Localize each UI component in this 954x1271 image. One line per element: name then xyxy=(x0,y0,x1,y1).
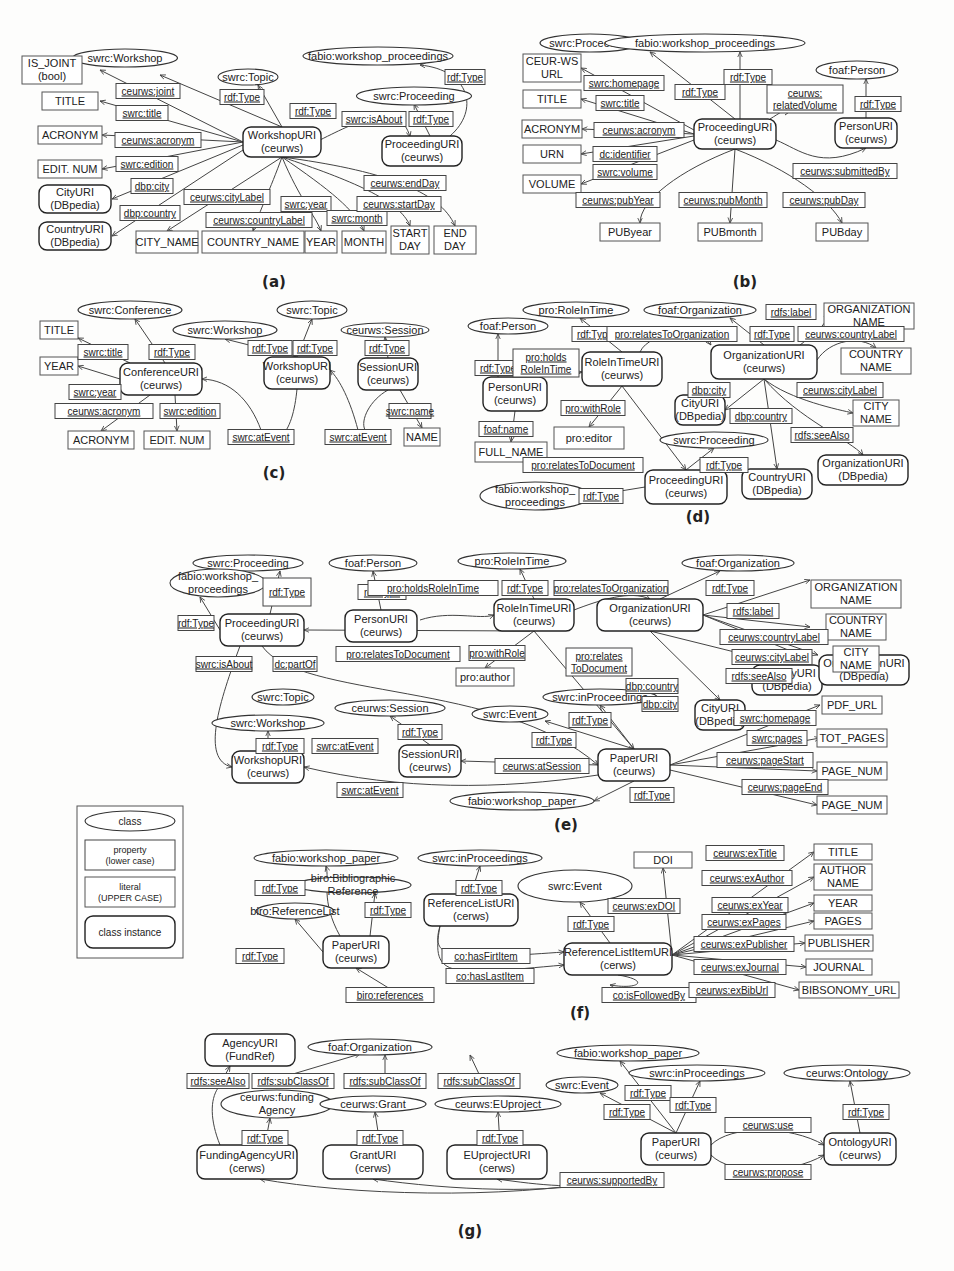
property-label: swrc:name xyxy=(386,404,435,419)
node-label: rdf:Type xyxy=(583,491,620,502)
node-label: rdfs:label xyxy=(771,307,812,318)
literal-node: CITY_NAME xyxy=(136,231,199,253)
node-label: TITLE xyxy=(55,95,85,107)
instance-node: ProceedingURI(ceurws) xyxy=(645,470,727,504)
node-label: (ceurws) xyxy=(247,767,289,779)
node-label: TITLE xyxy=(44,324,74,336)
node-label: YEAR xyxy=(44,360,74,372)
node-label: FULL_NAME xyxy=(479,446,544,458)
node-label: swrc:Proceeding xyxy=(673,434,754,446)
node-label: TOT_PAGES xyxy=(819,732,884,744)
node-label: NAME xyxy=(860,361,892,373)
node-label: pro:relatesToOrganization xyxy=(615,329,730,340)
property-label: ceurws:startDay xyxy=(357,197,441,212)
class-node: ceurws:fundingAgency xyxy=(221,1090,333,1118)
property-label: ceurws:pageEnd xyxy=(742,780,828,795)
node-label: dbp:city xyxy=(692,385,726,396)
node-label: rdfs:subClassOf xyxy=(443,1076,514,1087)
class-node: foaf:Organization xyxy=(308,1039,432,1055)
property-label: ceurws:exPublisher xyxy=(694,937,794,952)
node-label: PersonURI xyxy=(488,381,542,393)
node-label: swrc:edition xyxy=(164,406,217,417)
property-label: ceurws:exJournal xyxy=(694,960,786,975)
literal-node: COUNTRYNAME xyxy=(841,348,911,374)
property-label: ceurws:exYear xyxy=(712,898,788,913)
edge-line xyxy=(730,149,735,223)
property-label: rdf:Type xyxy=(724,70,772,85)
node-label: rdf:Type xyxy=(754,329,791,340)
instance-node: CountryURI(DBpedia) xyxy=(742,469,812,499)
subfigure-caption: (d) xyxy=(686,508,710,526)
node-label: (cerws) xyxy=(479,1162,515,1174)
node-label: URL xyxy=(541,68,563,80)
literal-node: AUTHORNAME xyxy=(814,864,872,890)
node-label: (ceurws) xyxy=(714,134,756,146)
node-label: foaf:Organization xyxy=(328,1041,412,1053)
node-label: fabio:workshop_paper xyxy=(272,852,381,864)
node-label: ToDocument xyxy=(571,663,627,674)
node-label: ceurws:cityLabel xyxy=(190,192,264,203)
instance-node: OrganizationURI(ceurws) xyxy=(597,599,703,631)
node-label: ceurws:atSession xyxy=(503,761,581,772)
instance-node: SessionURI(ceurws) xyxy=(399,745,461,777)
node-label: rdf:Type xyxy=(712,583,749,594)
property-label: ceurws:use xyxy=(725,1118,811,1133)
node-label: (DBpedia) xyxy=(838,470,888,482)
node-label: (ceurws) xyxy=(261,142,303,154)
node-label: MONTH xyxy=(344,236,384,248)
instance-node: AgencyURI(FundRef) xyxy=(205,1034,295,1066)
property-label: ceurws:pubYear xyxy=(576,193,660,208)
node-label: swrc:Topic xyxy=(222,71,274,83)
node-label: swrc:Proceeding xyxy=(207,557,288,569)
node-label: swrc:atEvent xyxy=(232,432,289,443)
node-label: PersonURI xyxy=(839,120,893,132)
node-label: rdf:Type xyxy=(247,1133,284,1144)
node-label: swrc:name xyxy=(386,406,435,417)
node-label: NAME xyxy=(840,659,872,671)
node-label: swrc:inProceedings xyxy=(649,1067,745,1079)
node-label: swrc:Event xyxy=(555,1079,609,1091)
class-node: swrc:Topic xyxy=(218,69,278,85)
class-node: swrc:inProceedings xyxy=(629,1065,765,1081)
instance-node: OrganizationURI(ceurws) xyxy=(711,345,817,379)
node-label: (ceurws) xyxy=(845,133,887,145)
node-label: OntologyURI xyxy=(829,1136,892,1148)
node-label: ORGANIZATION xyxy=(828,303,911,315)
node-label: ceurws:pageEnd xyxy=(748,782,823,793)
property-label: ceurws:supportedBy xyxy=(560,1173,664,1188)
property-label: rdf:Type xyxy=(630,788,674,803)
node-label: fabio:workshop_paper xyxy=(468,795,577,807)
literal-node: CITYNAME xyxy=(833,646,879,672)
node-label: (cerws) xyxy=(229,1162,265,1174)
class-node: fabio:workshop_paper xyxy=(557,1045,699,1061)
property-label: ceurws:acronym xyxy=(55,404,153,419)
property-label: dbp:country xyxy=(730,409,792,424)
property-label: ceurws:pageStart xyxy=(717,753,813,768)
node-label: ceurws:pubMonth xyxy=(684,195,763,206)
instance-node: PaperURI(ceurws) xyxy=(598,749,670,781)
property-label: dbp:city xyxy=(131,179,173,194)
node-label: ceurws:cityLabel xyxy=(803,385,877,396)
node-label: swrc:atEvent xyxy=(329,432,386,443)
node-label: rdf:Type xyxy=(370,905,407,916)
node-label: ceurws:exJournal xyxy=(701,962,779,973)
property-label: ceurws:pubMonth xyxy=(679,193,767,208)
node-label: PUByear xyxy=(608,226,652,238)
property-label: swrc:title xyxy=(596,96,644,111)
literal-node: PAGES xyxy=(814,913,872,929)
node-label: swrc:homepage xyxy=(740,713,811,724)
node-label: (ceurws) xyxy=(360,626,402,638)
instance-node: GrantURI(cerws) xyxy=(323,1145,423,1179)
property-label: dc:partOf xyxy=(273,657,317,672)
node-label: WorkshopURI xyxy=(263,360,331,372)
node-label: pro:author xyxy=(460,671,510,683)
node-label: swrc:Workshop xyxy=(88,52,163,64)
property-label: swrc:year xyxy=(69,385,121,400)
property-label: swrc:title xyxy=(116,106,168,121)
node-label: PAGE_NUM xyxy=(822,765,883,777)
property-label: rdf:Type xyxy=(293,341,337,356)
node-label: RoleInTime xyxy=(521,364,572,375)
node-label: swrc:inProceedings xyxy=(432,852,528,864)
node-label: PaperURI xyxy=(332,939,380,951)
property-label: rdfs:seeAlso xyxy=(187,1074,249,1089)
